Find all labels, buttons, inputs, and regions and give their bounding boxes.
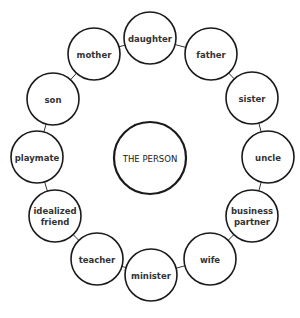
node-label: teacher: [79, 255, 116, 265]
connector-idealized-friend-playmate: [45, 182, 48, 191]
connector-business-partner-wife: [228, 235, 234, 241]
node-label: friend: [41, 217, 70, 227]
node-father: father: [185, 28, 237, 80]
center-label: THE PERSON: [122, 154, 178, 164]
connector-daughter-father: [175, 45, 186, 48]
node-sister: sister: [226, 72, 278, 124]
role-ring-diagram: daughterfathersisterunclebusinesspartner…: [0, 0, 300, 318]
node-label: business: [231, 206, 273, 216]
connector-son-mother: [71, 73, 77, 80]
connector-mother-daughter: [119, 45, 125, 47]
node-uncle: uncle: [242, 131, 294, 183]
connector-uncle-business-partner: [259, 182, 261, 191]
node-daughter: daughter: [124, 12, 176, 64]
node-label: sister: [238, 94, 266, 104]
connector-wife-minister: [176, 266, 185, 268]
node-teacher: teacher: [71, 233, 123, 285]
node-circle: [226, 190, 278, 242]
node-minister: minister: [125, 249, 177, 301]
node-label: idealized: [33, 206, 76, 216]
node-circle: [29, 190, 81, 242]
connector-sister-uncle: [259, 123, 261, 132]
node-playmate: playmate: [11, 131, 63, 183]
node-mother: mother: [68, 28, 120, 80]
node-label: minister: [131, 271, 172, 281]
center-node-the-person: THE PERSON: [114, 122, 186, 194]
node-label: daughter: [128, 34, 173, 44]
node-label: father: [196, 50, 226, 60]
node-wife: wife: [184, 233, 236, 285]
node-business-partner: businesspartner: [226, 190, 278, 242]
node-label: son: [45, 95, 62, 105]
node-label: partner: [234, 217, 271, 227]
node-idealized-friend: idealizedfriend: [29, 190, 81, 242]
node-label: playmate: [15, 153, 60, 163]
node-label: uncle: [255, 153, 281, 163]
node-label: wife: [200, 255, 220, 265]
connector-playmate-son: [44, 124, 46, 132]
node-son: son: [27, 73, 79, 125]
connector-father-sister: [229, 73, 235, 79]
connector-teacher-idealized-friend: [73, 235, 79, 241]
node-label: mother: [77, 50, 113, 60]
